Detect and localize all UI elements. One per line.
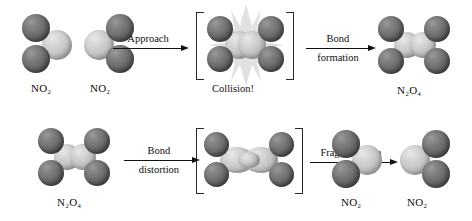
bracket-left-bottom xyxy=(196,128,204,194)
molecule-no2-product-2 xyxy=(396,130,452,188)
atom-oxygen-bottom-left xyxy=(38,160,64,186)
arrow-label-bond: Bond xyxy=(124,145,194,156)
atom-oxygen-top-right xyxy=(424,16,450,42)
atom-oxygen-upper xyxy=(422,130,450,158)
bracket-right-bottom xyxy=(295,128,303,194)
atom-oxygen-bottom-right xyxy=(84,160,110,186)
bracket-left-top xyxy=(196,12,204,80)
arrow-line xyxy=(124,160,194,161)
atom-oxygen-top-left xyxy=(378,16,404,42)
atom-oxygen-upper xyxy=(22,14,50,42)
label-no2-reactant-2: NO₂ xyxy=(90,82,110,94)
molecule-no2-product-1 xyxy=(330,130,386,188)
molecule-n2o4-reactant-bottom xyxy=(38,128,110,188)
atom-oxygen-lower xyxy=(22,45,50,73)
atom-oxygen-top-left xyxy=(204,132,229,157)
molecule-distorted-n2o4-intermediate xyxy=(204,132,294,188)
arrow-label-formation: formation xyxy=(306,52,370,63)
arrow-head xyxy=(368,45,376,51)
atom-oxygen-bottom-right xyxy=(269,162,294,187)
atom-oxygen-bottom-left xyxy=(378,48,404,74)
arrow-head xyxy=(181,45,189,51)
label-no2-product-1: NO₂ xyxy=(341,196,361,208)
atom-oxygen-upper xyxy=(332,130,360,158)
atom-oxygen-top-right xyxy=(84,128,110,154)
atom-oxygen-lower xyxy=(106,45,134,73)
label-n2o4-reactant-bottom: N₂O₄ xyxy=(57,196,81,208)
label-n2o4-product-top: N₂O₄ xyxy=(397,84,421,96)
arrow-line xyxy=(113,48,183,49)
arrow-label-approach: Approach xyxy=(113,33,183,44)
atom-nitrogen-bridge xyxy=(238,152,260,168)
arrow-label-distortion: distortion xyxy=(124,164,194,175)
bracket-right-top xyxy=(286,12,294,80)
label-no2-reactant-1: NO₂ xyxy=(31,82,51,94)
molecule-collision-intermediate-right xyxy=(238,16,284,74)
atom-oxygen-bottom-right xyxy=(424,48,450,74)
reaction-mechanism-figure: NO₂ NO₂ Approach Collision! Bond f xyxy=(0,0,472,221)
arrow-line xyxy=(306,48,370,49)
atom-oxygen-lower xyxy=(332,160,360,188)
molecule-no2-reactant-1 xyxy=(20,14,78,74)
atom-oxygen-lower xyxy=(258,46,284,72)
arrow-label-bond: Bond xyxy=(306,33,370,44)
atom-oxygen-upper xyxy=(207,16,233,42)
atom-oxygen-bottom-left xyxy=(204,162,229,187)
atom-oxygen-top-right xyxy=(269,132,294,157)
molecule-n2o4-product-top xyxy=(378,16,450,76)
atom-oxygen-top-left xyxy=(38,128,64,154)
caption-collision: Collision! xyxy=(212,83,254,94)
atom-oxygen-lower xyxy=(207,46,233,72)
atom-oxygen-upper xyxy=(258,16,284,42)
molecule-no2-reactant-2 xyxy=(78,14,136,74)
atom-oxygen-lower xyxy=(422,160,450,188)
label-no2-product-2: NO₂ xyxy=(407,196,427,208)
